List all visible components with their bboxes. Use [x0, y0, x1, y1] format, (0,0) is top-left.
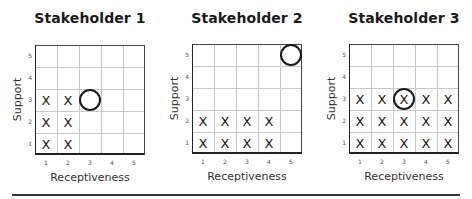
x-mark: X — [35, 89, 57, 111]
x-tick-label: 5 — [443, 158, 453, 165]
x-mark: X — [236, 110, 258, 132]
grid-line — [101, 46, 102, 153]
grid-line — [193, 66, 301, 67]
x-mark: X — [371, 88, 393, 110]
x-mark: X — [371, 110, 393, 132]
x-tick-label: 1 — [355, 158, 365, 165]
x-tick-label: 2 — [220, 158, 230, 165]
y-tick-label: 2 — [338, 117, 346, 124]
grid-line — [123, 46, 124, 153]
x-mark: X — [349, 132, 371, 154]
y-tick-label: 1 — [338, 139, 346, 146]
x-tick-label: 2 — [377, 158, 387, 165]
x-axis-label: Receptiveness — [349, 170, 459, 183]
x-mark: X — [393, 132, 415, 154]
circle-marker — [280, 44, 302, 66]
x-tick-label: 4 — [264, 158, 274, 165]
x-mark: X — [371, 132, 393, 154]
y-tick-label: 1 — [24, 140, 32, 147]
x-tick-label: 5 — [286, 158, 296, 165]
bottom-rule — [12, 194, 460, 196]
y-tick-label: 4 — [24, 74, 32, 81]
x-mark: X — [214, 110, 236, 132]
x-axis-label: Receptiveness — [35, 171, 145, 184]
x-tick-label: 4 — [107, 159, 117, 166]
y-axis-label: Support — [168, 69, 181, 129]
x-axis-label: Receptiveness — [192, 170, 302, 183]
x-mark: X — [393, 110, 415, 132]
grid-line — [193, 88, 301, 89]
x-mark: X — [437, 132, 459, 154]
x-tick-label: 1 — [198, 158, 208, 165]
grid-line — [36, 67, 144, 68]
y-tick-label: 3 — [24, 96, 32, 103]
panel-title: Stakeholder 2 — [172, 10, 322, 26]
y-axis-label: Support — [11, 70, 24, 130]
y-tick-label: 3 — [181, 95, 189, 102]
x-mark: X — [35, 111, 57, 133]
x-mark: X — [57, 133, 79, 155]
x-mark: X — [192, 132, 214, 154]
x-mark: X — [192, 110, 214, 132]
x-mark: X — [415, 132, 437, 154]
panel-title: Stakeholder 1 — [15, 10, 165, 26]
y-tick-label: 3 — [338, 95, 346, 102]
y-tick-label: 2 — [181, 117, 189, 124]
x-tick-label: 4 — [421, 158, 431, 165]
y-tick-label: 5 — [181, 51, 189, 58]
x-mark: X — [258, 132, 280, 154]
x-mark: X — [415, 88, 437, 110]
x-mark: X — [57, 89, 79, 111]
x-mark: X — [258, 110, 280, 132]
circle-marker — [393, 88, 415, 110]
x-mark: X — [236, 132, 258, 154]
x-tick-label: 2 — [63, 159, 73, 166]
y-tick-label: 5 — [24, 52, 32, 59]
x-mark: X — [415, 110, 437, 132]
x-tick-label: 3 — [399, 158, 409, 165]
y-tick-label: 4 — [338, 73, 346, 80]
x-mark: X — [349, 88, 371, 110]
x-tick-label: 1 — [41, 159, 51, 166]
x-mark: X — [349, 110, 371, 132]
x-tick-label: 3 — [242, 158, 252, 165]
y-tick-label: 1 — [181, 139, 189, 146]
x-mark: X — [35, 133, 57, 155]
x-mark: X — [214, 132, 236, 154]
y-tick-label: 5 — [338, 51, 346, 58]
x-mark: X — [437, 88, 459, 110]
x-tick-label: 5 — [129, 159, 139, 166]
y-tick-label: 2 — [24, 118, 32, 125]
grid-line — [350, 66, 458, 67]
y-tick-label: 4 — [181, 73, 189, 80]
x-tick-label: 3 — [85, 159, 95, 166]
x-mark: X — [437, 110, 459, 132]
x-mark: X — [57, 111, 79, 133]
panel-title: Stakeholder 3 — [329, 10, 472, 26]
circle-marker — [79, 89, 101, 111]
y-axis-label: Support — [325, 69, 338, 129]
